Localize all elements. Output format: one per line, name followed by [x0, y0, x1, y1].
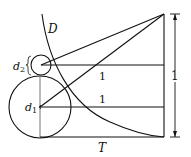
label-height: 1	[171, 69, 179, 83]
height-dim-arrow-down	[173, 131, 177, 137]
upper-diagonal	[41, 14, 164, 65]
label-d1: d1	[25, 101, 37, 115]
geometry-diagram: D d2 d1 1 1 1 T	[0, 0, 191, 157]
d2-bracket	[26, 56, 31, 75]
height-dim-arrow-up	[173, 14, 177, 20]
label-upper-length: 1	[99, 70, 106, 83]
label-base: T	[98, 141, 107, 155]
label-d: D	[47, 22, 58, 36]
label-lower-length: 1	[99, 93, 106, 106]
label-d2: d2	[13, 60, 25, 74]
